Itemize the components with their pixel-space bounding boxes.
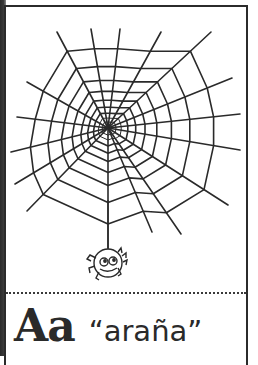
dotted-divider	[6, 292, 246, 294]
spider-web-icon	[0, 0, 258, 300]
spider-icon	[87, 200, 127, 280]
letter-label: Aa	[14, 300, 75, 351]
caption: Aa “araña”	[14, 300, 244, 356]
word-label: “araña”	[89, 314, 203, 348]
